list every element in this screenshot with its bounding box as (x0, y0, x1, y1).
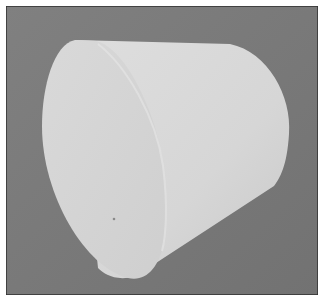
frustum-photo-svg (6, 6, 318, 295)
photograph (6, 6, 318, 295)
blemish-dot (113, 218, 116, 221)
